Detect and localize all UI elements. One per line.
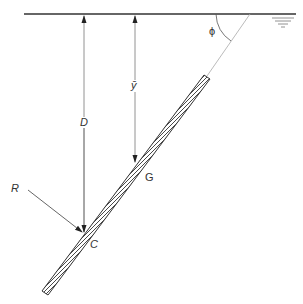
- label-ybar: ȳ: [131, 80, 137, 91]
- label-r: R: [11, 183, 19, 194]
- label-d: D: [80, 117, 88, 128]
- angle-arc: [216, 14, 231, 41]
- inclined-plate: [42, 75, 210, 295]
- label-phi: ϕ: [209, 26, 215, 37]
- label-c: C: [90, 239, 98, 250]
- plate-extension-line: [207, 14, 250, 76]
- resultant-force-arrow: [28, 190, 82, 232]
- label-g: G: [145, 172, 154, 183]
- inclined-plate-diagram: [0, 0, 303, 304]
- free-surface-symbol-icon: [272, 18, 294, 27]
